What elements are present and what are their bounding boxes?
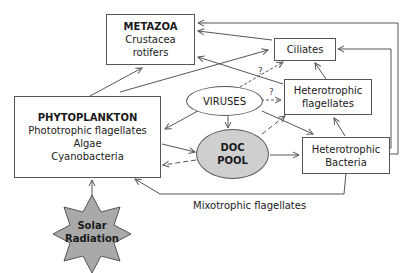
solar-radiation-label: Solar Radiation bbox=[62, 219, 122, 245]
arrow-ciliates-to-metazoa bbox=[198, 31, 272, 40]
arrow-hetflag-to-metazoa bbox=[198, 57, 283, 84]
arrow-phyto-to-metazoa bbox=[90, 68, 142, 96]
question-mark-hetflag: ? bbox=[269, 87, 274, 97]
phytoplankton-line-2: Algae bbox=[73, 137, 101, 150]
arrow-doc-to-hetflag bbox=[262, 116, 285, 134]
metazoa-box: METAZOA Crustacea rotifers bbox=[106, 14, 195, 65]
arrow-bacteria-to-hetflag bbox=[334, 118, 345, 136]
phytoplankton-box: PHYTOPLANKTON Phototrophic flagellates A… bbox=[14, 96, 161, 178]
het-bacteria-line-1: Heterotrophic bbox=[312, 143, 381, 156]
het-flagellates-line-1: Heterotrophic bbox=[294, 84, 363, 97]
het-flagellates-box: Heterotrophic flagellates bbox=[284, 79, 372, 115]
arrow-hetflag-to-ciliates bbox=[315, 63, 326, 79]
doc-pool-line-1: DOC bbox=[220, 141, 244, 154]
ciliates-title: Ciliates bbox=[287, 43, 324, 56]
mixotrophic-label: Mixotrophic flagellates bbox=[193, 200, 306, 211]
metazoa-title: METAZOA bbox=[124, 20, 178, 33]
het-bacteria-line-2: Bacteria bbox=[325, 156, 367, 169]
metazoa-line-1: Crustacea bbox=[125, 33, 175, 46]
doc-pool-ellipse: DOC POOL bbox=[196, 129, 269, 179]
ciliates-box: Ciliates bbox=[274, 38, 336, 61]
solar-line-2: Radiation bbox=[62, 232, 122, 245]
arrow-phyto-to-doc bbox=[162, 144, 195, 152]
het-bacteria-box: Heterotrophic Bacteria bbox=[302, 137, 390, 174]
phytoplankton-line-3: Cyanobacteria bbox=[51, 150, 124, 163]
metazoa-line-2: rotifers bbox=[133, 46, 169, 59]
question-mark-ciliates: ? bbox=[258, 66, 263, 76]
viruses-title: VIRUSES bbox=[203, 95, 246, 108]
phytoplankton-line-1: Phototrophic flagellates bbox=[28, 124, 147, 137]
het-flagellates-line-2: flagellates bbox=[302, 97, 354, 110]
doc-pool-line-2: POOL bbox=[217, 154, 248, 167]
viruses-ellipse: VIRUSES bbox=[186, 86, 263, 116]
arrow-doc-to-phyto bbox=[163, 160, 196, 165]
phytoplankton-title: PHYTOPLANKTON bbox=[38, 111, 138, 124]
solar-line-1: Solar bbox=[62, 219, 122, 232]
